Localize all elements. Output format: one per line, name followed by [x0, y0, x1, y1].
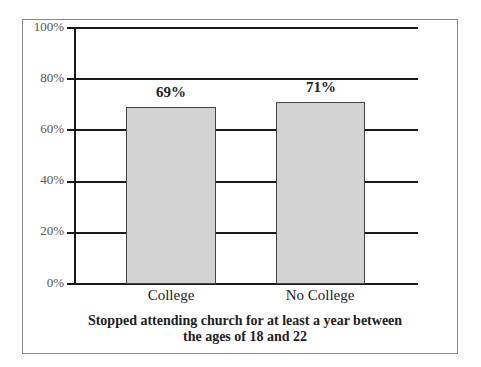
bar-no-college	[276, 102, 365, 284]
value-label-no-college: 71%	[276, 79, 366, 96]
chart-frame	[22, 19, 458, 354]
x-label-college: College	[111, 287, 231, 304]
chart-title-line-1: Stopped attending church for at least a …	[60, 313, 430, 329]
chart-title: Stopped attending church for at least a …	[60, 313, 430, 345]
gridline-0	[67, 283, 418, 285]
gridline-20	[67, 232, 418, 234]
y-tick-40: 40%	[4, 172, 64, 188]
y-axis	[74, 27, 76, 285]
x-label-no-college: No College	[260, 287, 380, 304]
gridline-40	[67, 181, 418, 183]
y-tick-100: 100%	[4, 19, 64, 35]
gridline-60	[67, 129, 418, 131]
y-tick-0: 0%	[4, 275, 64, 291]
y-tick-80: 80%	[4, 70, 64, 86]
y-tick-20: 20%	[4, 223, 64, 239]
bar-college	[126, 107, 216, 284]
gridline-100	[67, 27, 418, 29]
y-tick-60: 60%	[4, 121, 64, 137]
value-label-college: 69%	[126, 84, 216, 101]
chart-title-line-2: the ages of 18 and 22	[60, 329, 430, 345]
